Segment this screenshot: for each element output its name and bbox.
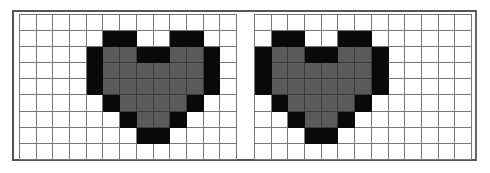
empty-pixel: [322, 144, 339, 160]
empty-pixel: [455, 128, 472, 144]
empty-pixel: [389, 15, 406, 31]
fill-pixel: [338, 95, 355, 111]
empty-pixel: [220, 31, 237, 47]
fill-pixel: [355, 79, 372, 95]
fill-pixel: [288, 63, 305, 79]
empty-pixel: [455, 79, 472, 95]
empty-pixel: [204, 95, 221, 111]
outline-pixel: [204, 79, 221, 95]
outline-pixel: [204, 47, 221, 63]
empty-pixel: [87, 31, 104, 47]
empty-pixel: [422, 47, 439, 63]
outline-pixel: [137, 128, 154, 144]
outline-pixel: [288, 31, 305, 47]
empty-pixel: [355, 128, 372, 144]
empty-pixel: [455, 31, 472, 47]
empty-pixel: [455, 47, 472, 63]
empty-pixel: [37, 31, 54, 47]
fill-pixel: [170, 79, 187, 95]
empty-pixel: [87, 112, 104, 128]
fill-pixel: [154, 95, 171, 111]
empty-pixel: [405, 31, 422, 47]
outline-pixel: [87, 79, 104, 95]
empty-pixel: [103, 144, 120, 160]
empty-pixel: [53, 15, 70, 31]
empty-pixel: [272, 15, 289, 31]
empty-pixel: [372, 112, 389, 128]
empty-pixel: [372, 31, 389, 47]
right-heart-grid: [254, 14, 472, 160]
empty-pixel: [255, 15, 272, 31]
empty-pixel: [405, 128, 422, 144]
empty-pixel: [120, 15, 137, 31]
outline-pixel: [355, 95, 372, 111]
outline-pixel: [322, 128, 339, 144]
fill-pixel: [154, 63, 171, 79]
empty-pixel: [389, 31, 406, 47]
empty-pixel: [220, 63, 237, 79]
empty-pixel: [137, 31, 154, 47]
empty-pixel: [53, 112, 70, 128]
empty-pixel: [305, 31, 322, 47]
empty-pixel: [70, 95, 87, 111]
fill-pixel: [137, 63, 154, 79]
fill-pixel: [120, 79, 137, 95]
empty-pixel: [439, 95, 456, 111]
empty-pixel: [255, 31, 272, 47]
fill-pixel: [305, 112, 322, 128]
outline-pixel: [103, 31, 120, 47]
empty-pixel: [439, 144, 456, 160]
empty-pixel: [439, 63, 456, 79]
outline-pixel: [120, 112, 137, 128]
empty-pixel: [87, 144, 104, 160]
empty-pixel: [305, 15, 322, 31]
empty-pixel: [372, 144, 389, 160]
empty-pixel: [154, 15, 171, 31]
empty-pixel: [305, 144, 322, 160]
outline-pixel: [154, 47, 171, 63]
fill-pixel: [187, 47, 204, 63]
fill-pixel: [338, 47, 355, 63]
empty-pixel: [87, 15, 104, 31]
fill-pixel: [272, 79, 289, 95]
empty-pixel: [405, 63, 422, 79]
empty-pixel: [355, 15, 372, 31]
outline-pixel: [170, 31, 187, 47]
empty-pixel: [20, 144, 37, 160]
outline-pixel: [372, 63, 389, 79]
outline-pixel: [372, 47, 389, 63]
empty-pixel: [70, 112, 87, 128]
empty-pixel: [20, 95, 37, 111]
outline-pixel: [338, 31, 355, 47]
empty-pixel: [389, 63, 406, 79]
outline-pixel: [170, 112, 187, 128]
outline-pixel: [322, 47, 339, 63]
empty-pixel: [338, 144, 355, 160]
empty-pixel: [120, 144, 137, 160]
empty-pixel: [37, 95, 54, 111]
empty-pixel: [389, 112, 406, 128]
empty-pixel: [20, 79, 37, 95]
outline-pixel: [272, 95, 289, 111]
empty-pixel: [70, 47, 87, 63]
empty-pixel: [439, 79, 456, 95]
fill-pixel: [137, 112, 154, 128]
fill-pixel: [355, 47, 372, 63]
empty-pixel: [220, 47, 237, 63]
fill-pixel: [288, 47, 305, 63]
empty-pixel: [405, 144, 422, 160]
empty-pixel: [37, 112, 54, 128]
empty-pixel: [422, 15, 439, 31]
empty-pixel: [355, 144, 372, 160]
empty-pixel: [220, 15, 237, 31]
empty-pixel: [204, 144, 221, 160]
empty-pixel: [37, 128, 54, 144]
outline-pixel: [187, 95, 204, 111]
empty-pixel: [255, 112, 272, 128]
empty-pixel: [355, 112, 372, 128]
fill-pixel: [120, 63, 137, 79]
empty-pixel: [37, 15, 54, 31]
empty-pixel: [170, 15, 187, 31]
empty-pixel: [389, 79, 406, 95]
empty-pixel: [455, 15, 472, 31]
